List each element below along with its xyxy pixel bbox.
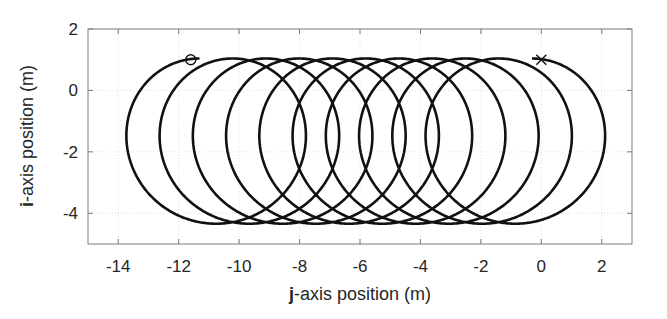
x-tick-label: -10 (227, 257, 252, 276)
y-tick-label: -2 (63, 143, 78, 162)
x-tick-label: -2 (473, 257, 488, 276)
x-tick-label: -14 (106, 257, 131, 276)
y-axis-label: i-axis position (m) (17, 65, 37, 207)
x-tick-label: -12 (166, 257, 191, 276)
y-tick-label: 2 (69, 20, 78, 39)
x-tick-label: -4 (413, 257, 428, 276)
x-axis-label: j-axis position (m) (288, 284, 431, 304)
x-tick-label: 2 (597, 257, 606, 276)
x-tick-label: -8 (292, 257, 307, 276)
y-tick-label: 0 (69, 81, 78, 100)
chart: -14-12-10-8-6-4-20220-2-4 j-axis positio… (0, 0, 667, 319)
y-tick-label: -4 (63, 204, 78, 223)
x-tick-label: -6 (352, 257, 367, 276)
x-tick-label: 0 (537, 257, 546, 276)
